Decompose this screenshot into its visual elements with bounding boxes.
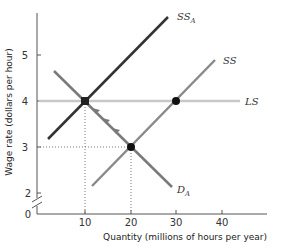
ss-a-label: SSA	[177, 11, 196, 25]
y-tick-label-0: 0	[25, 209, 31, 220]
point-20-3	[127, 143, 135, 151]
point-10-4	[81, 97, 89, 105]
y-tick-label-5: 5	[22, 50, 28, 61]
point-30-4	[172, 97, 180, 105]
y-axis-title: Wage rate (dollars per hour)	[4, 48, 14, 176]
x-tick-label-30: 30	[170, 217, 183, 228]
y-tick-label-4: 4	[22, 96, 28, 107]
y-tick-label-3: 3	[22, 142, 28, 153]
x-tick-label-20: 20	[125, 217, 138, 228]
x-tick-labels: 10 20 30 40	[79, 217, 229, 228]
guide-lines	[37, 101, 131, 214]
labor-market-chart: 5 4 3 2 0 10 20 30 40 Wage rate (dollars…	[0, 0, 283, 252]
d-a-label: DA	[176, 184, 190, 198]
axes	[32, 13, 267, 214]
y-tick-labels: 5 4 3 2 0	[22, 50, 31, 220]
ss-label: SS	[223, 55, 237, 66]
x-tick-label-10: 10	[79, 217, 92, 228]
ls-label: LS	[244, 96, 259, 107]
x-tick-label-40: 40	[216, 217, 229, 228]
y-tick-label-2: 2	[25, 188, 31, 199]
movement-arrows	[92, 108, 120, 134]
x-axis-title: Quantity (millions of hours per year)	[103, 232, 267, 242]
